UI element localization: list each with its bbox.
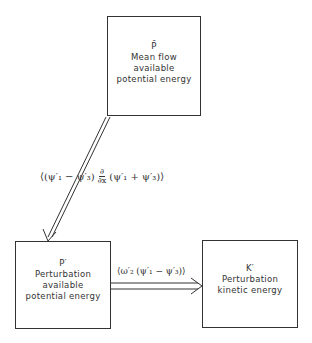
formula-left: ⟨(ψ′₁ − ψ′₃) [40, 171, 95, 182]
perturbation-ape-symbol: P′ [16, 258, 110, 269]
perturbation-ape-label-1: Perturbation [16, 269, 110, 280]
formula-right: (ψ′₁ + ψ′₃)⟩ [109, 171, 164, 182]
mean-flow-label-3: potential energy [108, 74, 200, 85]
partial-derivative-fraction: ∂ ∂x [98, 168, 107, 185]
perturbation-ke-label-1: Perturbation [203, 274, 297, 285]
mean-flow-ape-box: P̄ Mean flow available potential energy [107, 16, 201, 116]
frac-denominator: ∂x [98, 177, 107, 185]
horizontal-double-arrow [110, 278, 202, 294]
perturbation-ape-label-2: available [16, 280, 110, 291]
mean-flow-symbol: P̄ [108, 41, 200, 52]
perturbation-ape-label-3: potential energy [16, 291, 110, 302]
mean-flow-label-2: available [108, 63, 200, 74]
mean-to-perturbation-formula: ⟨(ψ′₁ − ψ′₃) ∂ ∂x (ψ′₁ + ψ′₃)⟩ [40, 165, 164, 187]
perturbation-ke-symbol: K′ [203, 263, 297, 274]
mean-flow-label-1: Mean flow [108, 52, 200, 63]
perturbation-ke-box: K′ Perturbation kinetic energy [202, 240, 298, 328]
perturbation-ke-label-2: kinetic energy [203, 285, 297, 296]
ape-to-ke-formula: ⟨ω′₂ (ψ′₁ − ψ′₃)⟩ [117, 266, 186, 276]
perturbation-ape-box: P′ Perturbation available potential ener… [15, 241, 111, 329]
